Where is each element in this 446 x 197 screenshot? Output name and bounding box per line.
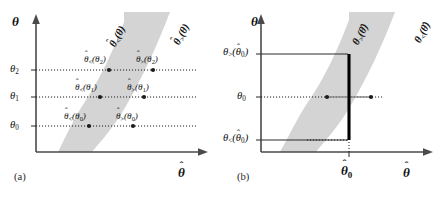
y-axis-arrow-a (32, 14, 40, 24)
point-label-upper-theta0: ̂θ>(θ0) (116, 112, 138, 122)
point-label-upper-theta2: ̂θ>(θ2) (136, 55, 158, 65)
y-tick-label-a-theta2: θ2 (10, 64, 19, 76)
panel-label-a: (a) (14, 172, 26, 183)
y-axis-arrow-b (257, 14, 265, 24)
y-tick-label-a-theta0: θ0 (10, 120, 19, 132)
x-axis-arrow-b (423, 148, 433, 156)
y-tick-label-b-upper: θ>(̂θ0) (223, 47, 248, 59)
y-tick-label-b-lower: θ<(̂θ0) (223, 133, 248, 145)
confidence-belt-band-b (280, 12, 395, 152)
y-tick-label-b-theta0: θ0 (237, 91, 246, 103)
x-axis-label-b: ̂θ (403, 166, 410, 179)
y-axis-label-a: θ (12, 15, 19, 28)
belt-point-lower-theta2 (107, 68, 111, 72)
point-label-lower-theta1: ̂θ<(θ1) (75, 83, 97, 93)
x-axis-arrow-a (198, 148, 208, 156)
point-label-lower-theta2: ̂θ<(θ2) (84, 55, 106, 65)
x-tick-label-b-xhat0: ̂θ0 (341, 164, 352, 179)
y-tick-label-a-theta1: θ1 (10, 91, 19, 103)
panel-b: θ ̂θ θ>(̂θ0) θ0 θ<(̂θ0) ̂θ0 θ>(θ̂) θ<(θ̂… (223, 0, 446, 197)
belt-point-upper-theta1 (142, 95, 146, 99)
belt-point-upper-theta2 (151, 68, 155, 72)
belt-point-upper-theta0-b (369, 95, 373, 99)
panel-label-b: (b) (237, 172, 249, 183)
belt-point-lower-theta1 (98, 95, 102, 99)
belt-point-lower-theta0-b (325, 95, 329, 99)
y-axis-label-b: θ (251, 15, 258, 28)
figure-root: θ ̂θ θ2 θ1 θ0 ̂θ<(θ) ̂θ>(θ) ̂θ<(θ2) ̂θ>(… (0, 0, 446, 197)
belt-point-upper-theta0 (131, 124, 135, 128)
belt-point-lower-theta0 (87, 124, 91, 128)
x-axis-label-a: ̂θ (178, 166, 185, 179)
point-label-upper-theta1: ̂θ>(θ1) (127, 83, 149, 93)
panel-a: θ ̂θ θ2 θ1 θ0 ̂θ<(θ) ̂θ>(θ) ̂θ<(θ2) ̂θ>(… (0, 0, 223, 197)
point-label-lower-theta0: ̂θ<(θ0) (64, 112, 86, 122)
panel-b-plot (223, 0, 446, 197)
